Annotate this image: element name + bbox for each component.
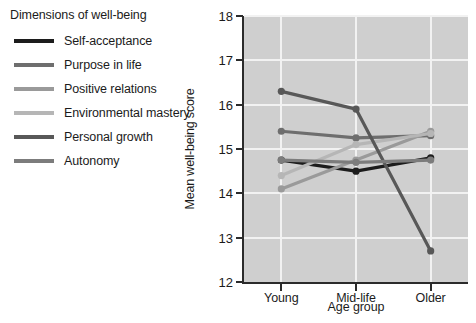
legend-swatch-line-icon (14, 63, 54, 67)
y-tick-label: 15 (219, 142, 233, 157)
y-tick-mark (236, 192, 243, 194)
data-point-marker (427, 156, 434, 163)
legend-item-label: Positive relations (64, 82, 157, 96)
y-tick-mark (236, 281, 243, 283)
legend-title: Dimensions of well-being (10, 8, 216, 22)
y-tick-label: 18 (219, 9, 233, 24)
data-point-marker (427, 130, 434, 137)
y-tick-label: 17 (219, 53, 233, 68)
legend-item-label: Personal growth (64, 130, 153, 144)
data-point-marker (278, 156, 285, 163)
x-axis-title: Age group (244, 300, 468, 314)
legend-swatch-line-icon (14, 39, 54, 43)
x-tick-mark (280, 284, 282, 291)
legend-item-label: Environmental mastery (64, 106, 190, 120)
data-point-marker (352, 141, 359, 148)
plot-area: 12131415161718 YoungMid-lifeOlder (244, 16, 468, 282)
data-point-marker (278, 88, 285, 95)
y-tick-mark (236, 59, 243, 61)
legend-swatch-line-icon (14, 159, 54, 163)
y-tick-mark (236, 148, 243, 150)
data-point-marker (427, 247, 434, 254)
legend-item-label: Autonomy (64, 154, 119, 168)
data-point-marker (278, 128, 285, 135)
legend-swatch-line-icon (14, 111, 54, 115)
legend-swatch-line-icon (14, 135, 54, 139)
x-tick-mark (430, 284, 432, 291)
y-tick-label: 13 (219, 230, 233, 245)
legend-item-label: Purpose in life (64, 58, 142, 72)
legend-item: Self-acceptance (8, 29, 216, 53)
y-tick-label: 16 (219, 97, 233, 112)
y-tick-mark (236, 237, 243, 239)
y-tick-label: 14 (219, 186, 233, 201)
legend-item: Purpose in life (8, 53, 216, 77)
well-being-line-chart-figure: Dimensions of well-being Self-acceptance… (0, 0, 476, 323)
data-point-marker (352, 134, 359, 141)
legend-swatch-line-icon (14, 87, 54, 91)
data-point-marker (352, 159, 359, 166)
data-point-marker (278, 172, 285, 179)
y-tick-mark (236, 104, 243, 106)
data-point-marker (352, 168, 359, 175)
data-point-marker (278, 185, 285, 192)
series-lines (244, 16, 468, 282)
legend-item-label: Self-acceptance (64, 34, 152, 48)
x-tick-mark (355, 284, 357, 291)
y-axis-title: Mean well-being score (183, 89, 197, 210)
y-tick-label: 12 (219, 275, 233, 290)
y-tick-mark (236, 15, 243, 17)
data-point-marker (352, 106, 359, 113)
